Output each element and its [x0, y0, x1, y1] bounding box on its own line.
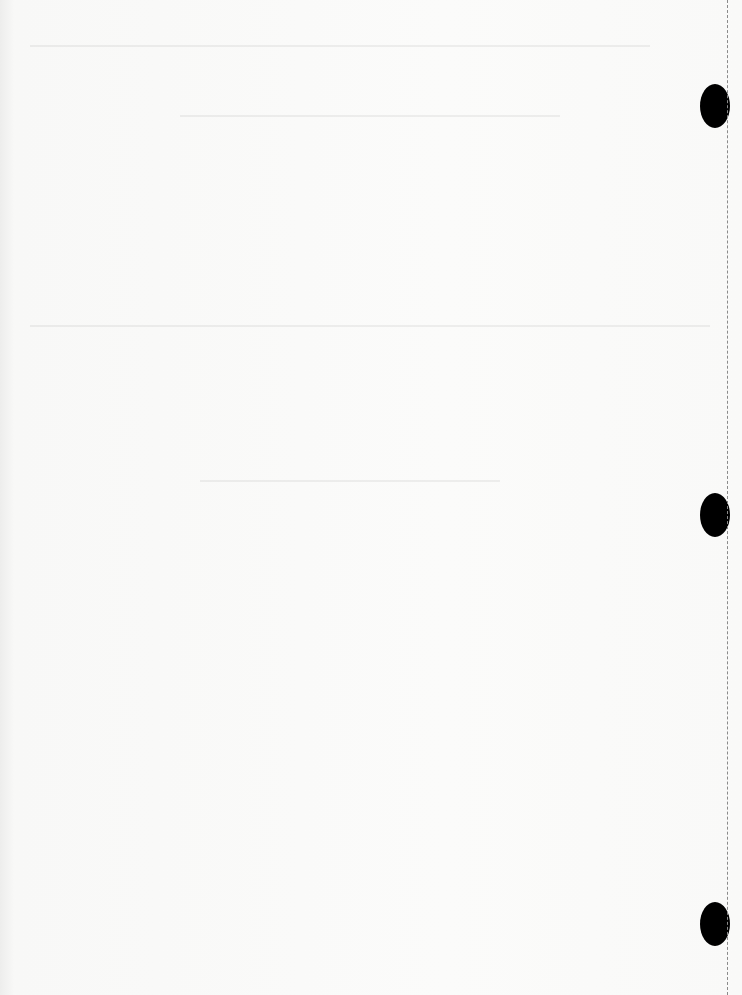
bleed-through-line	[180, 115, 560, 117]
bleed-through-line	[30, 45, 650, 47]
bleed-through-line	[30, 325, 710, 327]
bleed-through-line	[200, 480, 500, 482]
punch-hole-bottom	[700, 902, 730, 946]
punch-hole-top	[700, 84, 730, 128]
perforation-line	[727, 0, 728, 995]
blank-page	[0, 0, 742, 995]
punch-hole-middle	[700, 493, 730, 537]
